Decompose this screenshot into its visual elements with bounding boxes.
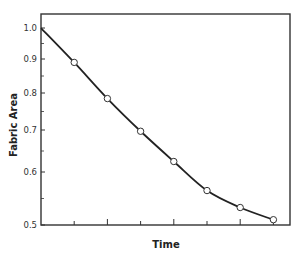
x-axis-title: Time (152, 239, 180, 250)
x-axis (74, 219, 273, 225)
data-point-marker (204, 187, 210, 193)
data-curve (41, 28, 273, 220)
y-axis: 1.00.90.80.70.60.5 (23, 23, 45, 230)
data-point-marker (237, 204, 243, 210)
data-markers (71, 59, 277, 223)
data-point-marker (71, 59, 77, 65)
y-tick-label: 0.9 (23, 54, 37, 64)
y-tick-label: 0.5 (23, 220, 37, 230)
data-point-marker (137, 128, 143, 134)
y-tick-label: 0.6 (23, 167, 37, 177)
chart: 1.00.90.80.70.60.5 Fabric Area Time (0, 0, 305, 262)
y-tick-label: 0.8 (23, 88, 37, 98)
y-axis-title: Fabric Area (8, 93, 19, 157)
plot-frame (41, 14, 290, 225)
data-point-marker (270, 217, 276, 223)
data-point-marker (171, 158, 177, 164)
data-point-marker (104, 95, 110, 101)
plot-border (41, 14, 290, 225)
y-tick-label: 0.7 (23, 125, 37, 135)
y-tick-label: 1.0 (23, 23, 37, 33)
